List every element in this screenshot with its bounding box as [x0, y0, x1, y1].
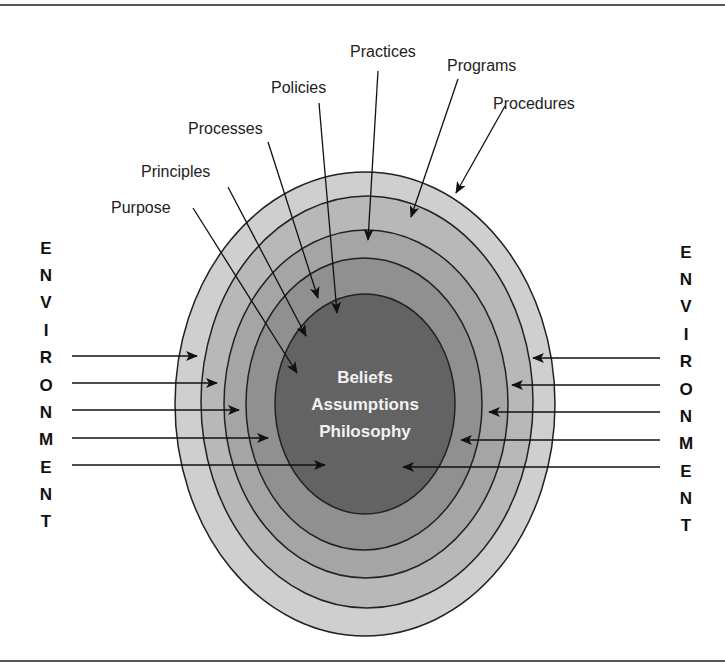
arrow-procedures [456, 106, 505, 193]
core-assumptions: Assumptions [311, 395, 419, 414]
env-letter: R [40, 348, 52, 367]
env-letter: O [39, 376, 52, 395]
label-programs: Programs [447, 57, 516, 74]
label-practices: Practices [350, 43, 416, 60]
env-letter: M [679, 434, 693, 453]
env-letter: N [680, 407, 692, 426]
env-letter: I [44, 321, 49, 340]
beliefs-layers-diagram: Beliefs Assumptions Philosophy Practices… [0, 0, 725, 668]
env-letter: R [680, 352, 692, 371]
label-policies: Policies [271, 79, 326, 96]
label-principles: Principles [141, 163, 210, 180]
env-letter: N [680, 489, 692, 508]
environment-label-right: E N V I R O N M E N T [679, 243, 693, 535]
env-letter: N [40, 266, 52, 285]
label-purpose: Purpose [111, 199, 171, 216]
env-letter: N [40, 485, 52, 504]
label-procedures: Procedures [493, 95, 575, 112]
env-letter: E [680, 462, 691, 481]
env-letter: E [40, 458, 51, 477]
env-letter: O [679, 380, 692, 399]
env-letter: E [40, 239, 51, 258]
env-letter: T [681, 516, 692, 535]
core-philosophy: Philosophy [319, 422, 411, 441]
label-processes: Processes [188, 120, 263, 137]
env-letter: V [40, 293, 52, 312]
env-letter: E [680, 243, 691, 262]
env-letter: V [680, 297, 692, 316]
env-letter: M [39, 430, 53, 449]
core-beliefs: Beliefs [337, 368, 393, 387]
env-letter: I [684, 325, 689, 344]
env-letter: T [41, 512, 52, 531]
environment-label-left: E N V I R O N M E N T [39, 239, 53, 531]
env-letter: N [40, 403, 52, 422]
env-letter: N [680, 270, 692, 289]
